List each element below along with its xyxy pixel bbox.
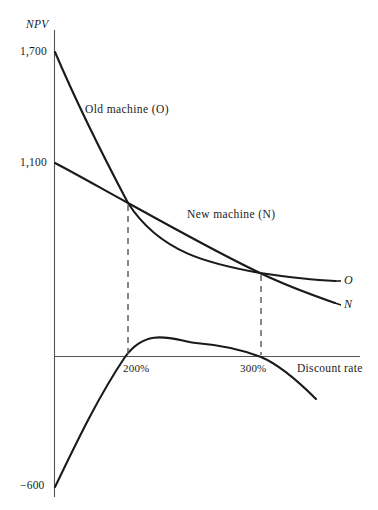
x-axis-title: Discount rate <box>297 363 363 375</box>
new-curve-leader <box>335 303 341 305</box>
new-machine-end-label: N <box>344 298 352 310</box>
npv-discount-rate-chart <box>0 0 378 510</box>
figure-canvas: NPV 1,700 1,100 −600 200% 300% Discount … <box>0 0 378 510</box>
old-machine-label: Old machine (O) <box>85 104 169 116</box>
x-tick-label-200: 200% <box>123 363 149 374</box>
new-machine-label: New machine (N) <box>187 209 275 221</box>
x-tick-label-300: 300% <box>240 363 266 374</box>
y-axis-title: NPV <box>26 19 49 31</box>
y-tick-label-1700: 1,700 <box>20 46 47 58</box>
y-tick-label-1100: 1,100 <box>20 157 47 169</box>
old-machine-end-label: O <box>344 274 353 286</box>
incremental-difference-curve <box>55 337 316 487</box>
old-machine-curve <box>55 52 335 281</box>
new-machine-curve <box>55 163 335 303</box>
y-tick-label-minus600: −600 <box>20 480 45 492</box>
